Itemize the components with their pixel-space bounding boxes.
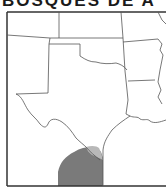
range-map bbox=[0, 0, 166, 195]
range-area bbox=[58, 146, 103, 186]
